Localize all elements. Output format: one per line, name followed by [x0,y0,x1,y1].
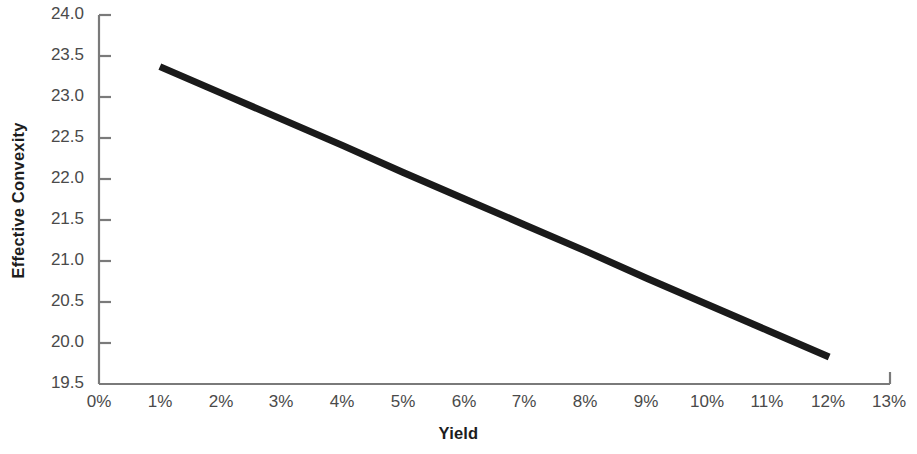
x-tick-label: 7% [494,392,554,412]
x-tick-label: 1% [130,392,190,412]
y-tick-label: 20.5 [24,291,84,311]
x-tick-label: 5% [373,392,433,412]
y-tick-label: 22.0 [24,168,84,188]
x-tick-label: 11% [737,392,797,412]
x-tick-label: 10% [677,392,737,412]
y-tick-label: 19.5 [24,373,84,393]
y-tick-label: 23.0 [24,86,84,106]
y-tick-label: 23.5 [24,45,84,65]
data-line-effective-convexity [160,67,829,357]
y-tick-label: 21.5 [24,209,84,229]
x-tick-label: 12% [798,392,858,412]
x-tick-label: 8% [555,392,615,412]
x-tick-label: 13% [859,392,917,412]
x-tick-label: 6% [434,392,494,412]
plot-area [0,0,917,454]
y-tick-label: 21.0 [24,250,84,270]
x-tick-label: 2% [191,392,251,412]
x-tick-label: 4% [312,392,372,412]
chart-container: Effective Convexity Yield 24.0 23.5 23.0 [0,0,917,454]
y-axis-ticks [99,56,111,343]
x-tick-label: 3% [251,392,311,412]
y-tick-label: 24.0 [24,4,84,24]
x-tick-label: 9% [616,392,676,412]
y-tick-label: 20.0 [24,332,84,352]
y-tick-label: 22.5 [24,127,84,147]
x-tick-label: 0% [69,392,129,412]
